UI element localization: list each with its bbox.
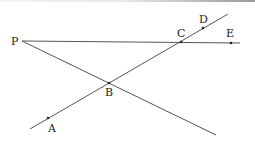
dot-A (47, 117, 50, 120)
dot-E (230, 42, 233, 45)
line-PE (22, 41, 240, 43)
label-B: B (105, 86, 113, 99)
geometry-diagram: P A B C D E (0, 0, 255, 149)
dot-D (202, 27, 205, 30)
label-P: P (11, 35, 19, 48)
dot-B (108, 82, 111, 85)
dot-C (180, 41, 183, 44)
point-A: A (47, 117, 57, 135)
line-PB (22, 41, 216, 135)
label-C: C (177, 27, 185, 40)
label-D: D (199, 13, 208, 26)
point-E: E (226, 27, 234, 44)
line-AD (30, 14, 228, 129)
point-P: P (11, 35, 19, 48)
point-C: C (177, 27, 185, 43)
label-A: A (47, 122, 57, 135)
label-E: E (226, 27, 234, 40)
